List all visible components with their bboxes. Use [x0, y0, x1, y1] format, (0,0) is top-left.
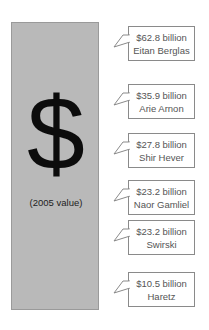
- dollar-sign-icon: $: [12, 81, 100, 185]
- dollar-value-panel: $ (2005 value): [11, 22, 99, 310]
- estimate-source: Eitan Berglas: [129, 44, 194, 57]
- estimate-value: $35.9 billion: [129, 89, 194, 102]
- estimate-callout: $10.5 billion Haretz: [128, 272, 195, 307]
- estimate-value: $23.2 billion: [129, 225, 194, 238]
- speech-tail-icon: [113, 33, 130, 53]
- estimate-source: Naor Gamliel: [129, 198, 194, 211]
- estimate-source: Arie Arnon: [129, 102, 194, 115]
- estimate-callout: $35.9 billion Arie Arnon: [128, 84, 195, 119]
- estimate-value: $27.8 billion: [129, 138, 194, 151]
- speech-tail-icon: [113, 187, 130, 207]
- speech-tail-icon: [113, 91, 130, 111]
- speech-tail-icon: [113, 279, 130, 299]
- estimate-source: Haretz: [129, 290, 194, 303]
- speech-tail-icon: [113, 140, 130, 160]
- estimate-callout: $62.8 billion Eitan Berglas: [128, 26, 195, 61]
- estimate-source: Shir Hever: [129, 151, 194, 164]
- estimate-callout: $27.8 billion Shir Hever: [128, 133, 195, 168]
- estimate-value: $10.5 billion: [129, 277, 194, 290]
- estimate-source: Swirski: [129, 238, 194, 251]
- estimate-value: $62.8 billion: [129, 31, 194, 44]
- estimate-callout: $23.2 billion Swirski: [128, 220, 195, 255]
- value-year-note: (2005 value): [12, 197, 100, 208]
- estimate-callout: $23.2 billion Naor Gamliel: [128, 180, 195, 215]
- estimate-value: $23.2 billion: [129, 185, 194, 198]
- speech-tail-icon: [113, 227, 130, 247]
